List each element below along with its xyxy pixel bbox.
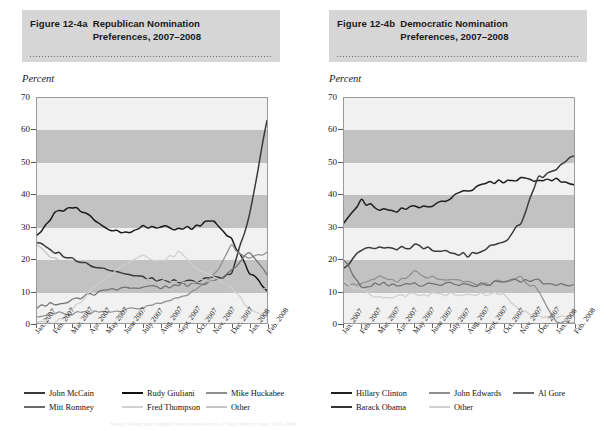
figure-panel-a: Figure 12-4a Republican Nomination Prefe…: [0, 0, 307, 431]
figure-b-title-line1: Democratic Nomination: [400, 18, 508, 29]
figure-b-y-axis-label: Percent: [329, 73, 361, 84]
y-tick-label: 0: [333, 319, 338, 329]
legend-label: Rudy Giuliani: [147, 389, 195, 398]
legend-item: Fred Thompson: [122, 398, 200, 416]
legend-swatch: [122, 392, 143, 394]
figure-a-title-line2: Preferences, 2007–2008: [93, 31, 201, 42]
legend-swatch: [206, 392, 227, 394]
legend-label: Barack Obama: [356, 403, 406, 412]
series-line: [344, 156, 574, 268]
y-tick-label: 30: [21, 222, 30, 232]
figure-b-plot-frame: [343, 97, 575, 324]
legend-label: Mike Huckabee: [231, 389, 284, 398]
figure-a-banner: Figure 12-4a Republican Nomination Prefe…: [22, 10, 280, 62]
figure-a-legend-row-2: Mitt RomneyFred ThompsonOther: [24, 398, 304, 412]
y-tick-label: 70: [21, 92, 30, 102]
legend-label: Other: [231, 403, 250, 412]
figure-a-number: Figure 12-4a: [30, 18, 88, 29]
figure-a-plot: [36, 97, 268, 324]
figure-a-lines: [37, 98, 267, 323]
figure-b-banner: Figure 12-4b Democratic Nomination Prefe…: [329, 10, 587, 62]
y-tick-label: 50: [21, 157, 30, 167]
legend-label: Hillary Clinton: [356, 389, 407, 398]
figure-a-title-line1: Republican Nomination: [93, 18, 200, 29]
legend-item: Other: [429, 398, 473, 416]
figure-b-title-line2: Preferences, 2007–2008: [400, 31, 508, 42]
legend-label: Mitt Romney: [49, 403, 94, 412]
y-tick-label: 50: [328, 157, 337, 167]
figure-a-legend-row-1: John McCainRudy GiulianiMike Huckabee: [24, 384, 304, 398]
figure-b-legend-row-2: Barack ObamaOther: [331, 398, 611, 412]
legend-label: John Edwards: [454, 389, 501, 398]
figure-b-number: Figure 12-4b: [337, 18, 395, 29]
figure-a-plot-frame: [36, 97, 268, 324]
figure-b-dotted-rule: [336, 55, 580, 57]
legend-swatch: [331, 406, 352, 408]
figure-a-title: Republican Nomination Preferences, 2007–…: [93, 18, 201, 43]
legend-item: Barack Obama: [331, 398, 406, 416]
legend-label: John McCain: [49, 389, 94, 398]
figure-b-plot: [343, 97, 575, 324]
y-tick-label: 20: [21, 254, 30, 264]
source-note: Source: Polling data compiled from natio…: [110, 421, 550, 430]
figure-panel-b: Figure 12-4b Democratic Nomination Prefe…: [307, 0, 614, 431]
legend-swatch: [206, 406, 227, 408]
figure-a-y-axis-label: Percent: [22, 73, 54, 84]
legend-swatch: [24, 406, 45, 408]
y-tick-label: 40: [21, 189, 30, 199]
figure-a-dotted-rule: [29, 55, 273, 57]
y-tick-label: 10: [328, 287, 337, 297]
y-tick-label: 10: [21, 287, 30, 297]
figure-b-y-axis: 010203040506070: [307, 97, 343, 324]
series-line: [344, 260, 574, 287]
y-tick-label: 30: [328, 222, 337, 232]
figure-a-x-labels: Jan. 2007Feb. 2007Mar. 2007Apr. 2007May …: [0, 330, 307, 380]
legend-item: Other: [206, 398, 250, 416]
figure-a-legend: John McCainRudy GiulianiMike Huckabee Mi…: [24, 384, 304, 412]
series-line: [37, 245, 267, 290]
legend-swatch: [122, 406, 143, 408]
legend-swatch: [429, 406, 450, 408]
figure-page: Figure 12-4a Republican Nomination Prefe…: [0, 0, 614, 431]
figure-b-legend-row-1: Hillary ClintonJohn EdwardsAl Gore: [331, 384, 611, 398]
y-tick-label: 70: [328, 92, 337, 102]
y-tick-label: 60: [21, 124, 30, 134]
y-tick-label: 0: [26, 319, 31, 329]
figure-a-y-axis: 010203040506070: [0, 97, 36, 324]
figure-b-title: Democratic Nomination Preferences, 2007–…: [400, 18, 508, 43]
figure-b-x-labels: Jan. 2007Feb. 2007Mar. 2007Apr. 2007May …: [307, 330, 614, 380]
series-line: [344, 177, 574, 222]
y-tick-label: 20: [328, 254, 337, 264]
legend-swatch: [24, 392, 45, 394]
series-line: [37, 121, 267, 283]
y-tick-label: 60: [328, 124, 337, 134]
legend-swatch: [513, 392, 534, 394]
legend-item: Mitt Romney: [24, 398, 94, 416]
y-tick-label: 40: [328, 189, 337, 199]
legend-swatch: [331, 392, 352, 394]
figure-b-lines: [344, 98, 574, 323]
legend-swatch: [429, 392, 450, 394]
legend-label: Other: [454, 403, 473, 412]
figure-b-legend: Hillary ClintonJohn EdwardsAl Gore Barac…: [331, 384, 611, 412]
legend-label: Fred Thompson: [147, 403, 200, 412]
legend-label: Al Gore: [538, 389, 565, 398]
